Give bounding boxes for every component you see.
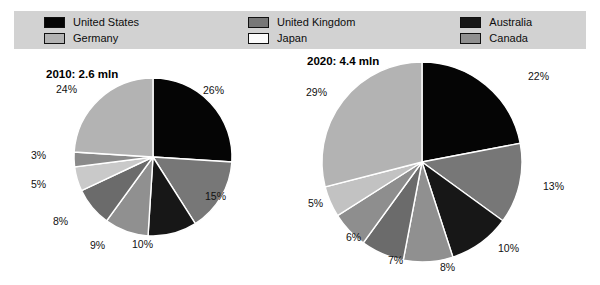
legend-swatch-japan (248, 33, 269, 44)
legend-item-canada[interactable]: Canada (460, 31, 532, 45)
pie-value-label-canada: 5% (31, 178, 46, 190)
pie-slice-germany[interactable] (74, 78, 153, 157)
pie-value-label-france: 8% (53, 215, 68, 227)
pie-value-label-others: 3% (31, 149, 46, 161)
pie-value-label-others: 5% (308, 197, 323, 209)
pie-value-label-united-kingdom: 13% (543, 180, 564, 192)
pie-value-label-australia: 10% (498, 242, 519, 254)
legend-label-australia: Australia (489, 16, 532, 28)
legend-swatch-united-kingdom (248, 17, 269, 28)
legend-label-canada: Canada (489, 32, 528, 44)
legend-item-united-states[interactable]: United States (44, 15, 139, 29)
legend-column-0: United StatesGermany (44, 15, 139, 45)
legend-swatch-germany (44, 33, 65, 44)
legend-item-japan[interactable]: Japan (248, 31, 355, 45)
legend-item-australia[interactable]: Australia (460, 15, 532, 29)
legend-label-germany: Germany (73, 32, 118, 44)
legend-label-united-states: United States (73, 16, 139, 28)
pie-value-label-united-states: 22% (528, 70, 549, 82)
legend-item-united-kingdom[interactable]: United Kingdom (248, 15, 355, 29)
legend-item-germany[interactable]: Germany (44, 31, 139, 45)
pie-value-label-japan: 9% (90, 239, 105, 251)
legend-column-1: United KingdomJapan (248, 15, 355, 45)
legend-label-japan: Japan (277, 32, 307, 44)
pie-chart-2010: 2010: 2.6 mln 26%15%10%9%8%5%3%24% (22, 56, 272, 281)
pie-value-label-canada: 6% (346, 231, 361, 243)
pie-value-label-australia: 10% (132, 238, 153, 250)
legend-label-united-kingdom: United Kingdom (277, 16, 355, 28)
legend-swatch-canada (460, 33, 481, 44)
pie-value-label-united-states: 26% (203, 84, 224, 96)
legend-swatch-australia (460, 17, 481, 28)
pie-value-label-germany: 24% (56, 83, 77, 95)
pie-value-label-united-kingdom: 15% (205, 190, 226, 202)
pie-value-label-japan: 8% (440, 261, 455, 273)
pie-chart-2020: 2020: 4.4 mln 22%13%10%8%7%6%5%29% (285, 52, 595, 285)
chart-legend: United StatesGermanyUnited KingdomJapanA… (14, 11, 586, 49)
pie-value-label-france: 7% (388, 254, 403, 266)
legend-swatch-united-states (44, 17, 65, 28)
pie-value-label-germany: 29% (306, 86, 327, 98)
legend-column-2: AustraliaCanada (460, 15, 532, 45)
pie-graphic-2010 (72, 76, 234, 238)
